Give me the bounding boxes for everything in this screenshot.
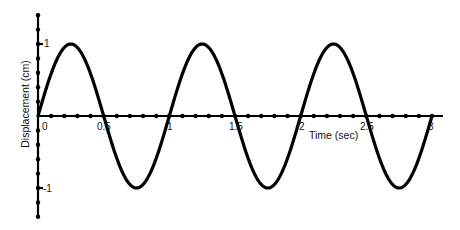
x-minor-tick — [62, 114, 66, 118]
sine-wave-chart — [0, 0, 460, 230]
x-minor-tick — [193, 114, 197, 118]
x-minor-tick — [377, 114, 381, 118]
y-minor-tick — [36, 215, 40, 219]
x-minor-tick — [154, 114, 158, 118]
x-minor-tick — [272, 114, 276, 118]
x-minor-tick — [246, 114, 250, 118]
x-minor-tick — [312, 114, 316, 118]
y-minor-tick — [36, 157, 40, 161]
y-minor-tick — [36, 27, 40, 31]
x-minor-tick — [88, 114, 92, 118]
x-minor-tick — [338, 114, 342, 118]
y-minor-tick — [36, 128, 40, 132]
x-minor-tick — [351, 114, 355, 118]
axes — [38, 13, 443, 218]
y-axis-title: Displacement (cm) — [19, 57, 31, 151]
y-minor-tick — [36, 56, 40, 60]
y-minor-tick — [36, 171, 40, 175]
y-minor-tick — [36, 99, 40, 103]
x-minor-tick — [207, 114, 211, 118]
y-minor-tick — [36, 71, 40, 75]
x-minor-tick — [75, 114, 79, 118]
x-minor-tick — [285, 114, 289, 118]
x-minor-tick — [390, 114, 394, 118]
y-minor-tick — [36, 143, 40, 147]
x-axis-title: Time (sec) — [309, 129, 358, 141]
x-minor-tick — [259, 114, 263, 118]
x-tick-1: 1 — [167, 121, 173, 132]
x-minor-tick — [220, 114, 224, 118]
x-minor-tick — [325, 114, 329, 118]
x-tick-0.5: 0.5 — [97, 121, 111, 132]
x-tick-3: 3 — [428, 121, 434, 132]
x-minor-tick — [115, 114, 119, 118]
x-tick-2: 2 — [299, 121, 305, 132]
x-minor-tick — [141, 114, 145, 118]
y-minor-tick — [36, 200, 40, 204]
x-tick-0: 0 — [42, 121, 48, 132]
x-minor-tick — [180, 114, 184, 118]
x-minor-tick — [417, 114, 421, 118]
x-tick-2.5: 2.5 — [360, 121, 374, 132]
x-minor-tick — [404, 114, 408, 118]
y-tick-minus-1: -1 — [43, 183, 52, 194]
x-tick-1.5: 1.5 — [229, 121, 243, 132]
y-tick-1: 1 — [44, 38, 50, 49]
x-minor-tick — [49, 114, 53, 118]
y-minor-tick — [36, 13, 40, 17]
x-minor-tick — [128, 114, 132, 118]
y-minor-tick — [36, 85, 40, 89]
